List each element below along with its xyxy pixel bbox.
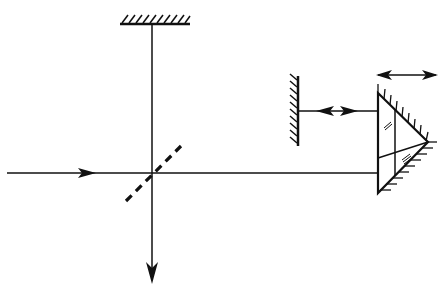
- corner-prism: [378, 84, 437, 193]
- top-mirror: [120, 15, 190, 24]
- mirror-prism-distance-arrow: [298, 106, 378, 116]
- diagram-canvas: [0, 0, 446, 292]
- prism-translation-arrow: [376, 70, 438, 80]
- side-mirror: [290, 74, 298, 146]
- interferometer-diagram: [0, 0, 446, 292]
